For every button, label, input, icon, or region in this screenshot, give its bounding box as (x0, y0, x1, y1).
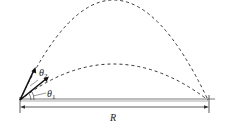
high-trajectory (20, 0, 208, 100)
projectile-diagram: θ2 θ1 R (0, 0, 225, 133)
theta2-leader (30, 80, 38, 86)
range-arrowhead-right (204, 105, 209, 108)
theta2-velocity-arrow (20, 70, 34, 100)
theta2-label: θ2 (39, 67, 48, 80)
theta1-velocity-arrow (20, 79, 46, 100)
range-label: R (109, 112, 116, 123)
theta1-leader (33, 93, 46, 96)
range-arrowhead-left (20, 105, 25, 108)
